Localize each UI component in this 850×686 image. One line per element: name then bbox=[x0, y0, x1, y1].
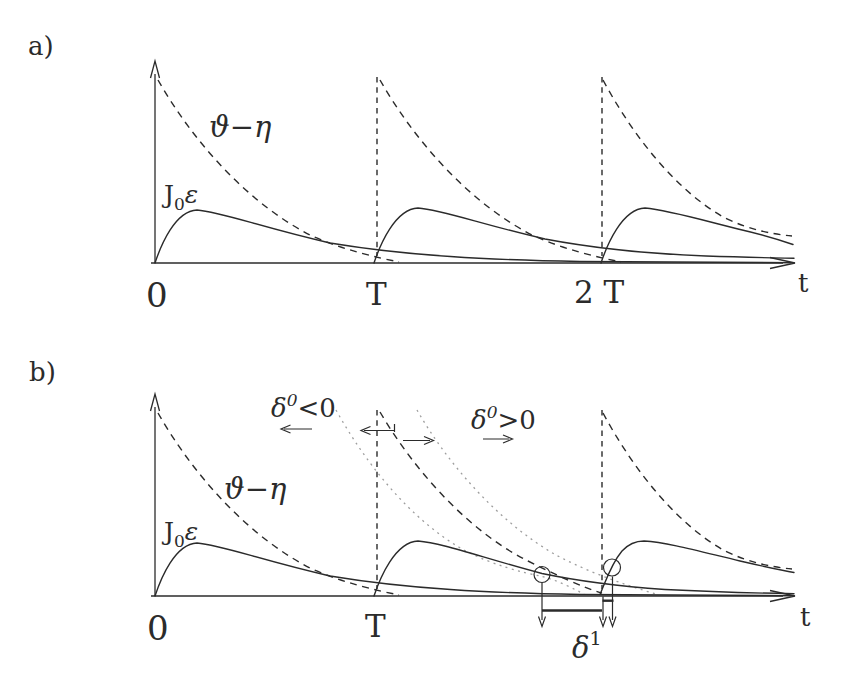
figure-page: a) ϑ−η J0ε 0 T 2 T t bbox=[0, 0, 850, 686]
shift-left-arrow-icon bbox=[361, 424, 395, 435]
x-tick-2T-a: 2 T bbox=[574, 274, 625, 310]
solid-curve-label-b: J0ε bbox=[161, 517, 198, 551]
x-tick-T-b: T bbox=[365, 608, 386, 644]
delta1-label: δ1 bbox=[572, 627, 602, 665]
x-tick-zero-b: 0 bbox=[147, 608, 169, 648]
solid-pulse-b-2 bbox=[374, 541, 794, 596]
panel-b-label: b) bbox=[29, 357, 56, 387]
x-axis-label-b: t bbox=[800, 602, 811, 632]
shift-left-label-arrow-icon bbox=[281, 425, 312, 433]
shift-left-label: δ0<0 bbox=[271, 390, 336, 423]
solid-pulse-a-2 bbox=[374, 208, 794, 263]
panel-a-label: a) bbox=[28, 31, 54, 61]
figure-canvas: a) ϑ−η J0ε 0 T 2 T t bbox=[0, 0, 850, 686]
shift-right-label: δ0>0 bbox=[471, 402, 536, 435]
solid-curve-label-a: J0ε bbox=[161, 180, 198, 214]
dashed-decay-a-1 bbox=[158, 80, 399, 262]
drop-arrow-icon-left bbox=[539, 583, 546, 627]
x-tick-zero-a: 0 bbox=[146, 275, 168, 315]
panel-a: a) ϑ−η J0ε 0 T 2 T t bbox=[28, 31, 809, 315]
dashed-decay-a-2 bbox=[380, 80, 621, 262]
shift-right-arrow-icon bbox=[403, 437, 434, 445]
x-tick-T-a: T bbox=[366, 276, 387, 312]
dotted-decay-shift-left bbox=[336, 410, 584, 594]
shift-right-label-arrow-icon bbox=[483, 435, 513, 443]
dashed-curve-label-a: ϑ−η bbox=[209, 110, 272, 144]
dashed-decay-b-3 bbox=[603, 413, 792, 569]
x-axis-label-a: t bbox=[798, 268, 809, 298]
dashed-curve-label-b: ϑ−η bbox=[224, 472, 287, 506]
solid-pulse-a-3 bbox=[601, 208, 793, 263]
panel-b: b) δ0<0 δ0>0 ϑ−η J0ε 0 T t δ1 bbox=[29, 357, 811, 665]
